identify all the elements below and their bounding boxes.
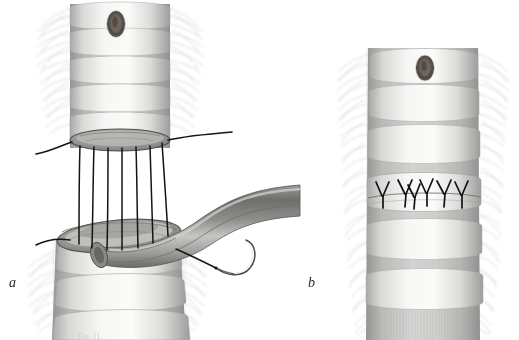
lower-tracheal-stump — [52, 215, 190, 340]
panel-label-b: b — [308, 275, 315, 291]
upper-tracheal-stump — [70, 2, 170, 151]
anastomosed-trachea — [366, 48, 483, 340]
figure-container: a b Fig. 11. — [0, 0, 519, 340]
upper-stump-cut-rim — [70, 129, 170, 151]
cartilage-rings-panel-b — [366, 49, 483, 310]
anatomical-illustration — [0, 0, 519, 340]
tracheal-stoma-panel-b — [415, 55, 434, 81]
tracheal-stoma-upper — [107, 11, 126, 38]
figure-caption: Fig. 11. — [78, 332, 338, 340]
panel-label-a: a — [9, 275, 16, 291]
